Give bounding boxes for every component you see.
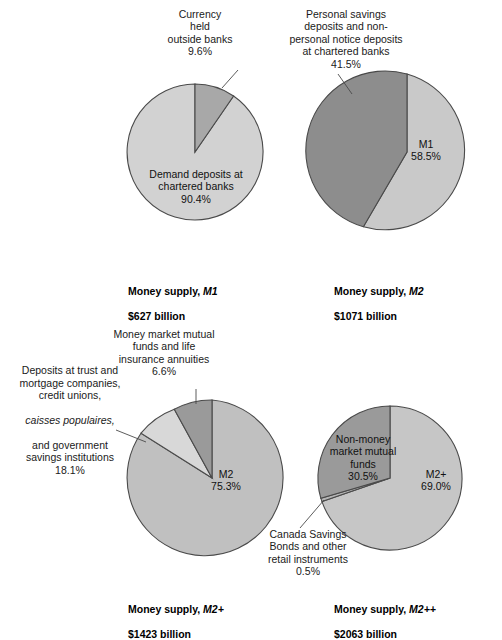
caption-m1: Money supply, M1 $627 billion — [128, 272, 278, 322]
caption-m2-prefix: Money supply, — [334, 285, 409, 297]
caption-m2plus-prefix: Money supply, — [128, 603, 203, 615]
deposits-trust-line2: and government savings institutions 18.1… — [26, 439, 114, 476]
caption-m2plus-amount: $1423 billion — [128, 628, 191, 640]
caption-m2plus: Money supply, M2+ $1423 billion — [128, 590, 288, 640]
caption-m1-symbol: M1 — [203, 285, 218, 297]
caption-m1-prefix: Money supply, — [128, 285, 203, 297]
pie-m1-leader-line — [222, 70, 238, 88]
pie-m1-label-currency-held: Currency held outside banks 9.6% — [146, 8, 254, 58]
caption-m2plusplus-symbol: M2++ — [409, 603, 436, 615]
caption-m2plusplus: Money supply, M2++ $2063 billion — [334, 590, 502, 640]
caption-m1-amount: $627 billion — [128, 310, 185, 322]
deposits-trust-line1: Deposits at trust and mortgage companies… — [20, 364, 121, 401]
pie-m2-label-m1: M1 58.5% — [396, 138, 456, 163]
pie-m2plus-label-m2: M2 75.3% — [196, 468, 256, 493]
caption-m2plusplus-amount: $2063 billion — [334, 628, 397, 640]
pie-m2plusplus-label-csb: Canada Savings Bonds and other retail in… — [256, 528, 360, 578]
pie-m2plus-label-deposits-trust: Deposits at trust and mortgage companies… — [10, 352, 130, 476]
pie-m2-label-personal-savings: Personal savings deposits and non- perso… — [276, 8, 416, 70]
pie-m2plusplus-label-m2plus: M2+ 69.0% — [404, 468, 468, 493]
deposits-trust-italic: caisses populaires, — [25, 414, 114, 426]
pie-m1-label-demand-deposits: Demand deposits at chartered banks 90.4% — [130, 168, 262, 205]
caption-m2plusplus-prefix: Money supply, — [334, 603, 409, 615]
caption-m2-amount: $1071 billion — [334, 310, 397, 322]
caption-m2-symbol: M2 — [409, 285, 424, 297]
pie-m2plusplus-leader-line-csb — [300, 500, 324, 528]
pie-m2plusplus-label-non-money-mmf: Non-money market mutual funds 30.5% — [320, 433, 406, 483]
caption-m2plus-symbol: M2+ — [203, 603, 224, 615]
caption-m2: Money supply, M2 $1071 billion — [334, 272, 494, 322]
